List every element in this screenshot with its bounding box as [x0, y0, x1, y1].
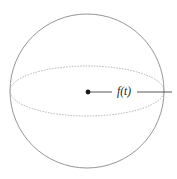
- sphere-diagram-svg: f(t): [0, 0, 177, 179]
- figure-background: [0, 0, 177, 179]
- function-label: f(t): [117, 85, 131, 98]
- figure-canvas: f(t): [0, 0, 177, 179]
- center-dot: [86, 90, 91, 95]
